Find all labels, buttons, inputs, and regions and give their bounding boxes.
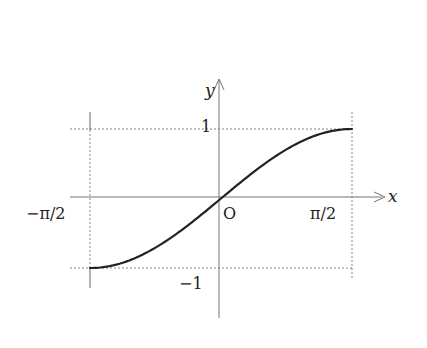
sine-graph: y x 1 −1 O −π/2 π/2 <box>0 0 427 348</box>
origin-label: O <box>223 204 236 223</box>
axes <box>70 79 385 318</box>
y-tick-1: 1 <box>201 117 211 136</box>
x-tick-neg-pi-half: −π/2 <box>26 204 66 223</box>
y-tick-neg1: −1 <box>179 274 203 293</box>
x-tick-pi-half: π/2 <box>310 204 336 223</box>
y-axis-label: y <box>204 80 215 100</box>
x-axis-label: x <box>388 186 398 206</box>
sine-curve <box>90 129 352 268</box>
plot-canvas: y x 1 −1 O −π/2 π/2 <box>0 0 427 348</box>
